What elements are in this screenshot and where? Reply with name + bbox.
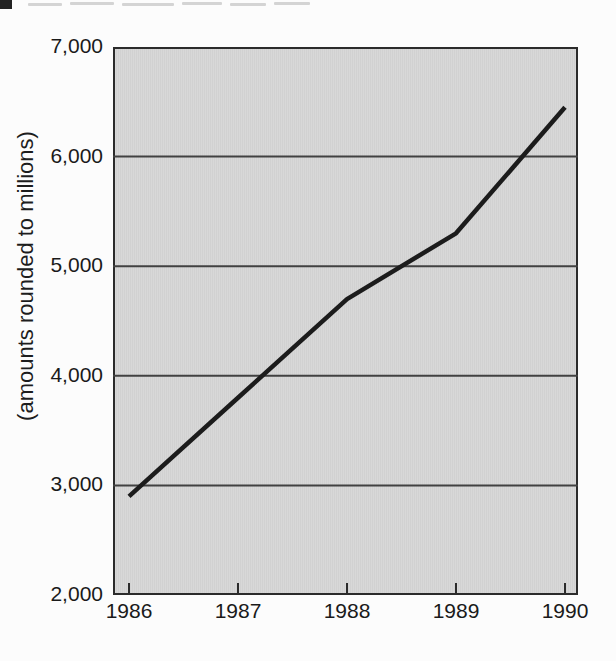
x-tick-label: 1990 (542, 599, 589, 623)
x-tick-label: 1988 (324, 599, 371, 623)
x-tick-label: 1986 (106, 599, 153, 623)
x-tick-label: 1987 (215, 599, 262, 623)
figure-page: (amounts rounded to millions) 2,0003,000… (0, 0, 616, 661)
x-tick-label: 1989 (433, 599, 480, 623)
x-axis-tick-labels: 19861987198819891990 (0, 0, 616, 661)
